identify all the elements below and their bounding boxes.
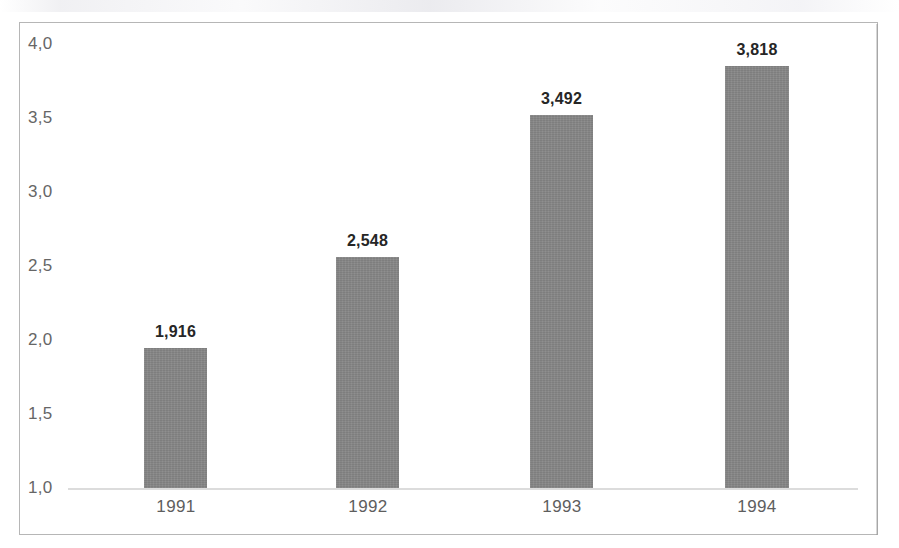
category-label-1991: 1991 [134,497,218,517]
bar-1994[interactable] [725,66,789,488]
data-label-1991: 1,916 [144,323,207,341]
y-axis-tick-label-5: 1,5 [28,404,72,424]
x-axis-baseline [68,488,858,490]
category-label-1992: 1992 [326,497,410,517]
bar-chart-plot-area: 4,0 3,5 3,0 2,5 2,0 1,5 1,0 1,916 2,548 … [0,0,899,548]
data-label-1993: 3,492 [530,90,593,108]
y-axis-tick-label-4: 2,0 [28,330,72,350]
y-axis-tick-label-6: 1,0 [28,478,72,498]
bar-1991[interactable] [144,348,207,488]
y-axis-tick-label-1: 3,5 [28,108,72,128]
bar-1992[interactable] [336,257,399,488]
data-label-1994: 3,818 [725,41,789,59]
category-label-1994: 1994 [715,497,799,517]
category-label-1993: 1993 [520,497,604,517]
y-axis-tick-label-2: 3,0 [28,182,72,202]
y-axis-tick-label-0: 4,0 [28,34,72,54]
data-label-1992: 2,548 [336,232,399,250]
y-axis-tick-label-3: 2,5 [28,256,72,276]
chart-screenshot: 4,0 3,5 3,0 2,5 2,0 1,5 1,0 1,916 2,548 … [0,0,899,548]
bar-1993[interactable] [530,115,593,488]
